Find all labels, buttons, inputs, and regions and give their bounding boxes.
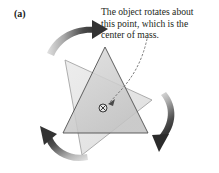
center-of-mass-symbol xyxy=(99,104,107,112)
rotation-arrow-right xyxy=(152,92,174,152)
rotating-object-diagram xyxy=(0,0,219,173)
figure-panel-a: (a) The object rotates about this point,… xyxy=(0,0,219,173)
rotation-arrow-top xyxy=(47,20,108,56)
